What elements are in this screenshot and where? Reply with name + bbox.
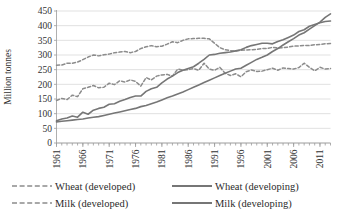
- legend-item: Milk (developing): [172, 198, 292, 210]
- y-tick-label: 450: [38, 6, 53, 16]
- x-tick-label: 1971: [105, 149, 115, 168]
- y-tick-label: 250: [38, 65, 53, 75]
- y-axis-label-text: Million tonnes: [3, 49, 13, 105]
- y-axis-title: Million tonnes: [3, 49, 13, 105]
- x-tick-label: 1961: [52, 149, 62, 168]
- x-axis-tick-labels: 1961196619711976198119861991199620012006…: [52, 149, 325, 168]
- x-tick-label: 1991: [210, 149, 220, 168]
- x-tick-label: 2001: [263, 149, 273, 168]
- chart-container: 050100150200250300350400450 196119661971…: [0, 0, 337, 218]
- line-chart: 050100150200250300350400450 196119661971…: [0, 0, 337, 218]
- y-tick-label: 150: [38, 94, 53, 104]
- series-line-wheat-developed: [57, 63, 331, 100]
- series-line-wheat-developing: [57, 21, 331, 121]
- legend-label: Wheat (developed): [55, 181, 136, 193]
- y-tick-label: 350: [38, 36, 53, 46]
- x-tick-label: 1996: [236, 149, 246, 168]
- x-tick-label: 1966: [78, 149, 88, 168]
- y-axis-tick-labels: 050100150200250300350400450: [38, 6, 53, 148]
- legend-item: Wheat (developing): [172, 181, 299, 193]
- y-tick-label: 50: [43, 124, 53, 134]
- legend-label: Milk (developing): [215, 198, 292, 210]
- x-tick-label: 1986: [184, 149, 194, 168]
- x-tick-label: 1981: [157, 149, 167, 168]
- legend-label: Milk (developed): [55, 198, 129, 210]
- series-line-milk-developed: [57, 38, 331, 65]
- y-tick-label: 400: [38, 21, 53, 31]
- y-tick-label: 200: [38, 80, 53, 90]
- y-tick-label: 100: [38, 109, 53, 119]
- x-tick-label: 2011: [315, 149, 325, 168]
- axes: [54, 10, 331, 147]
- legend-item: Milk (developed): [12, 198, 129, 210]
- chart-legend: Wheat (developed)Wheat (developing)Milk …: [12, 181, 299, 210]
- x-tick-label: 1976: [131, 149, 141, 168]
- legend-label: Wheat (developing): [215, 181, 299, 193]
- y-tick-label: 0: [47, 138, 52, 148]
- x-tick-label: 2006: [289, 149, 299, 168]
- data-series: [57, 14, 331, 122]
- gridlines: [57, 11, 331, 143]
- y-tick-label: 300: [38, 50, 53, 60]
- legend-item: Wheat (developed): [12, 181, 136, 193]
